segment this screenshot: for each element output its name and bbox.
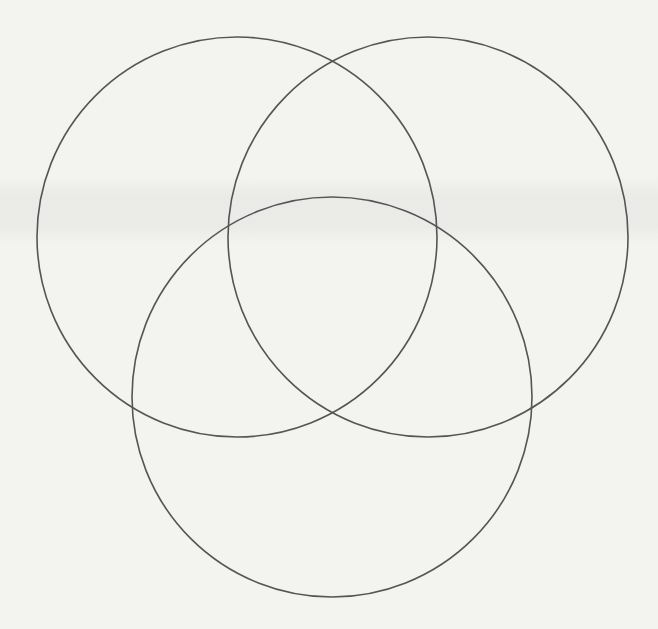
venn-diagram (0, 0, 658, 629)
venn-circle-bottom (132, 197, 532, 597)
venn-circle-top-right (228, 37, 628, 437)
venn-circle-top-left (37, 37, 437, 437)
